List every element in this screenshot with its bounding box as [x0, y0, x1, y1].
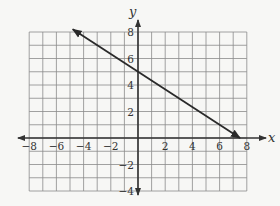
x-tick-label: −6: [49, 140, 65, 152]
axes: [18, 20, 266, 195]
y-tick-label: −4: [119, 185, 135, 197]
y-axis-label: y: [128, 4, 137, 19]
y-tick-label: 4: [127, 79, 134, 91]
x-tick-label: 6: [216, 140, 223, 152]
y-tick-label: 2: [127, 106, 134, 118]
coordinate-plane: −8−6−4−224688642−2−4 x y: [0, 0, 280, 206]
x-tick-label: 4: [189, 140, 196, 152]
x-tick-label: −2: [103, 140, 118, 152]
x-tick-label: 8: [243, 140, 250, 152]
x-tick-label: −4: [76, 140, 92, 152]
x-axis-label: x: [268, 130, 276, 145]
x-tick-label: 2: [162, 140, 169, 152]
y-tick-label: −2: [119, 159, 134, 171]
x-tick-label: −8: [21, 140, 36, 152]
y-tick-label: 8: [127, 26, 134, 38]
y-tick-label: 6: [127, 53, 134, 65]
